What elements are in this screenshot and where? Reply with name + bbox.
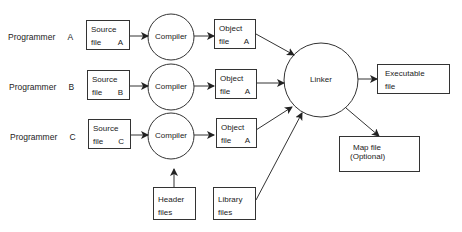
programmer-label: Programmer	[8, 32, 55, 42]
box-line1: Source	[93, 124, 118, 133]
box-line2: files	[218, 208, 232, 217]
header-files-box: Header files	[153, 187, 196, 220]
box-id: C	[118, 137, 124, 146]
library-files-box: Library files	[213, 187, 256, 220]
box-line2: file	[220, 87, 230, 96]
box-line1: Library	[218, 195, 242, 204]
box-line1: Header	[158, 195, 184, 204]
box-line2: file	[385, 82, 395, 91]
box-line2: file	[221, 136, 231, 145]
box-line2: file	[92, 88, 102, 97]
object-file-a-box: Object file A	[214, 19, 256, 49]
source-file-c-box: Source file C	[88, 119, 131, 149]
object-file-b-box: Object file A	[215, 69, 257, 99]
compiler-c-label: Compiler	[148, 131, 194, 141]
box-id: A	[118, 38, 123, 47]
box-line1: Executable	[385, 69, 425, 78]
programmer-id: C	[70, 132, 76, 142]
box-id: A	[245, 136, 250, 145]
box-line1: Object	[219, 24, 242, 33]
box-line1: Source	[91, 25, 116, 34]
programmer-a-label: Programmer A	[8, 32, 73, 42]
linker-label: Linker	[290, 75, 352, 85]
map-file-box: Map file (Optional)	[339, 136, 420, 172]
programmer-id: B	[69, 82, 75, 92]
box-line2: (Optional)	[350, 152, 385, 161]
box-line1: Map file	[353, 143, 381, 152]
box-id: B	[118, 88, 123, 97]
source-file-b-box: Source file B	[87, 70, 130, 100]
programmer-id: A	[68, 32, 74, 42]
box-id: A	[244, 37, 249, 46]
box-line1: Object	[221, 123, 244, 132]
programmer-label: Programmer	[10, 132, 57, 142]
box-line1: Object	[220, 74, 243, 83]
compile-link-diagram: Programmer A Programmer B Programmer C S…	[0, 0, 462, 232]
executable-file-box: Executable file	[377, 64, 450, 94]
box-line2: file	[91, 38, 101, 47]
programmer-label: Programmer	[9, 82, 56, 92]
programmer-b-label: Programmer B	[9, 82, 74, 92]
box-line2: file	[93, 137, 103, 146]
box-id: A	[245, 87, 250, 96]
object-file-c-box: Object file A	[216, 118, 257, 148]
box-line1: Source	[92, 75, 117, 84]
source-file-a-box: Source file A	[86, 20, 130, 50]
programmer-c-label: Programmer C	[10, 132, 76, 142]
compiler-b-label: Compiler	[148, 82, 194, 92]
box-line2: files	[158, 208, 172, 217]
box-line2: file	[219, 37, 229, 46]
compiler-a-label: Compiler	[148, 32, 194, 42]
